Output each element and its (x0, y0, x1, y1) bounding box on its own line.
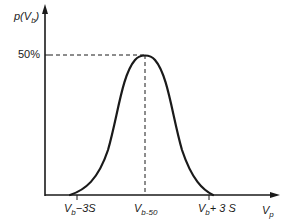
x-tick-label-right: Vb+ 3 S (198, 202, 236, 217)
x-axis-arrow-icon (270, 192, 280, 198)
x-axis-label: Vp (262, 204, 274, 219)
bell-curve (70, 56, 213, 196)
y-axis-arrow-icon (42, 4, 48, 14)
chart-canvas (0, 0, 287, 222)
y-axis-label: p(Vb) (14, 10, 39, 25)
y-tick-label-50: 50% (18, 48, 40, 60)
x-tick-label-left: Vb−3S (64, 202, 96, 217)
x-tick-label-mid: Vb-50 (134, 202, 157, 217)
